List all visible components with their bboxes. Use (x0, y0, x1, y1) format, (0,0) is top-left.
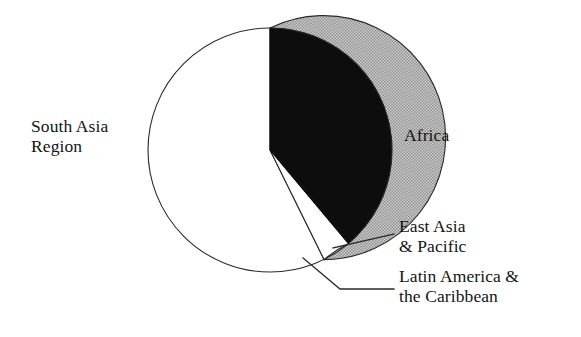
pie-chart-figure: South Asia Region Africa East Asia & Pac… (0, 0, 581, 337)
pie-label-east-asia-pacific: East Asia & Pacific (399, 216, 466, 257)
pie-label-south-asia-region-line1: South Asia (31, 116, 108, 136)
pie-label-africa-line1: Africa (404, 125, 449, 145)
pie-label-east-asia-pacific-line1: East Asia (399, 216, 466, 236)
pie-label-latin-america-caribbean: Latin America & the Caribbean (399, 266, 519, 307)
pie-label-east-asia-pacific-line2: & Pacific (399, 236, 466, 256)
pie-label-latin-america-caribbean-line1: Latin America & (399, 266, 519, 286)
pie-label-south-asia-region: South Asia Region (31, 116, 108, 157)
pie-label-latin-america-caribbean-line2: the Caribbean (399, 286, 519, 306)
pie-label-africa: Africa (404, 125, 449, 145)
pie-label-south-asia-region-line2: Region (31, 136, 108, 156)
